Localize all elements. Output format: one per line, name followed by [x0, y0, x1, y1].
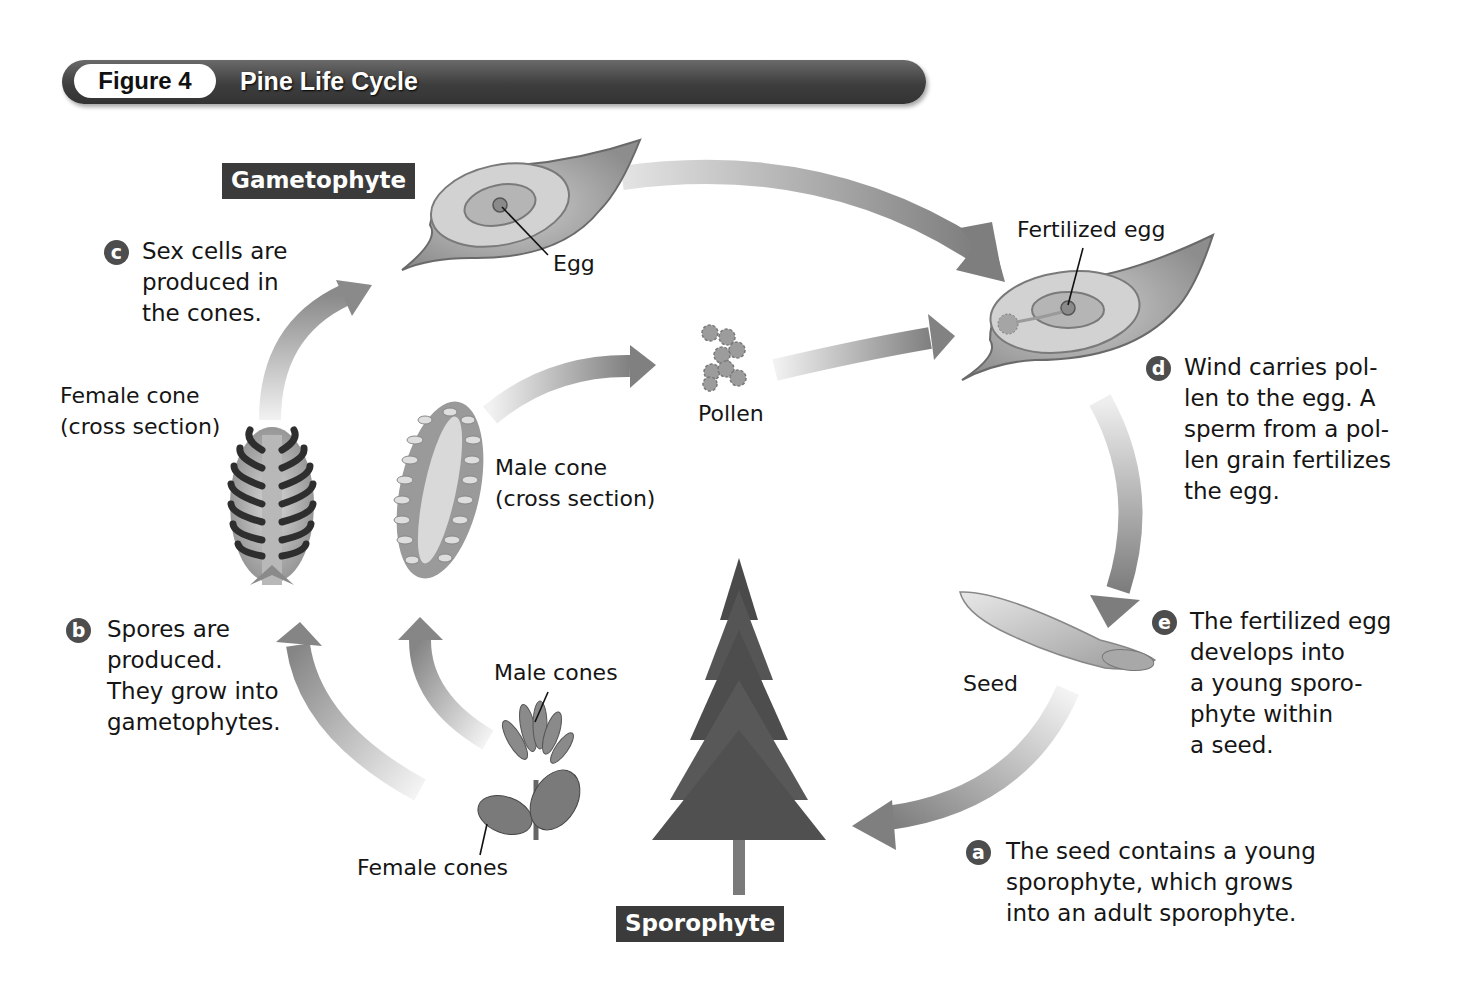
figure-number-label: Figure 4	[74, 64, 216, 98]
pollen-grains-icon	[702, 325, 746, 391]
step-e-text: The fertilized egg develops into a young…	[1190, 606, 1391, 761]
step-a-text: The seed contains a young sporophyte, wh…	[1006, 836, 1316, 929]
gametophyte-stage-label: Gametophyte	[222, 163, 415, 199]
fertilized-ovule-illustration-icon	[962, 235, 1213, 380]
step-b-text: Spores are produced. They grow into game…	[107, 614, 281, 738]
seed-label: Seed	[963, 668, 1018, 699]
male-cone-cross-section-icon	[382, 394, 498, 587]
step-badge-b: b	[66, 618, 91, 643]
pine-branch-cones-icon	[473, 692, 591, 855]
arrow-bottom-left-icon	[852, 690, 1068, 850]
female-cone-cross-section-icon	[230, 427, 314, 585]
female-cone-cross-section-label: Female cone (cross section)	[60, 380, 220, 442]
step-badge-a: a	[966, 840, 991, 865]
pine-tree-icon	[652, 558, 826, 895]
sporophyte-stage-label: Sporophyte	[616, 906, 784, 942]
step-d-text: Wind carries pol- len to the egg. A sper…	[1184, 352, 1391, 507]
step-c-text: Sex cells are produced in the cones.	[142, 236, 287, 329]
male-cones-label: Male cones	[494, 657, 618, 688]
ovule-illustration-icon	[402, 140, 640, 270]
fertilized-egg-label: Fertilized egg	[1017, 214, 1166, 245]
arrow-male-to-pollen-icon	[490, 345, 656, 415]
arrow-pollen-to-egg-icon	[775, 314, 955, 370]
figure-title: Pine Life Cycle	[240, 64, 418, 98]
step-badge-e: e	[1152, 610, 1177, 635]
arrow-left-up-outer-icon	[276, 622, 420, 790]
arrow-left-up-inner-icon	[398, 617, 488, 740]
pollen-label: Pollen	[698, 398, 764, 429]
egg-label: Egg	[553, 248, 595, 279]
female-cones-label: Female cones	[357, 852, 508, 883]
step-badge-c: c	[104, 240, 129, 265]
male-cone-cross-section-label: Male cone (cross section)	[495, 452, 655, 514]
arrow-right-down-icon	[1090, 400, 1140, 628]
step-badge-d: d	[1146, 356, 1171, 381]
arrow-top-icon	[622, 172, 1005, 282]
